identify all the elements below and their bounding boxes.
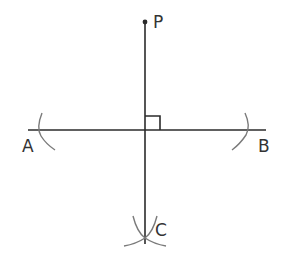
arc-near-a xyxy=(39,113,55,150)
label-p: P xyxy=(153,12,163,32)
arc-near-b xyxy=(232,113,248,150)
right-angle-marker xyxy=(145,116,160,130)
label-a: A xyxy=(22,136,34,156)
label-c: C xyxy=(155,220,167,240)
construction-diagram: P A B C xyxy=(0,0,286,257)
point-p xyxy=(143,20,148,25)
diagram-canvas: P A B C xyxy=(0,0,286,257)
label-b: B xyxy=(258,136,270,156)
